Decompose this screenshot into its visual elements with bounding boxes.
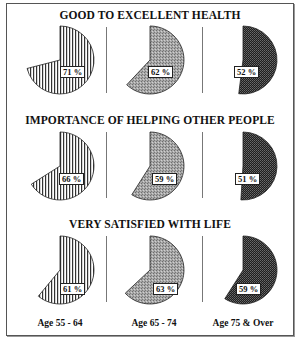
age-label-75-over: Age 75 & Over <box>193 318 293 328</box>
pct-label-helping-65-74: 59 % <box>152 173 177 185</box>
pct-label-satisfied-55-64: 61 % <box>60 283 85 295</box>
age-label-65-74: Age 65 - 74 <box>104 318 204 328</box>
pct-label-health-75-over: 52 % <box>234 66 259 78</box>
age-label-55-64: Age 55 - 64 <box>10 318 110 328</box>
pct-label-health-55-64: 71 % <box>60 66 85 78</box>
pct-label-satisfied-65-74: 63 % <box>153 283 178 295</box>
pct-label-health-65-74: 62 % <box>148 66 173 78</box>
pct-label-helping-55-64: 66 % <box>59 173 84 185</box>
pct-label-helping-75-over: 51 % <box>235 173 260 185</box>
pct-label-satisfied-75-over: 59 % <box>236 283 261 295</box>
